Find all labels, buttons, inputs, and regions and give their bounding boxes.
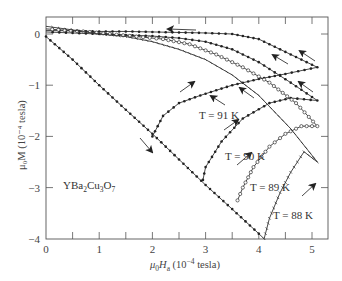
arrow-icon — [180, 82, 194, 92]
arrow-icon — [224, 120, 238, 130]
plot-frame — [46, 17, 328, 239]
x-tick-label: 5 — [309, 243, 315, 255]
arrow-icon — [211, 96, 225, 105]
temp-label-91k: T = 91 K — [199, 109, 239, 121]
arrow-icon — [168, 29, 196, 30]
temp-label-90k: T = 90 K — [225, 150, 265, 162]
magnetization-chart: YBa2Cu3O7 T = 91 K T = 90 K T = 89 K T =… — [0, 0, 342, 281]
compound-label: YBa2Cu3O7 — [63, 179, 115, 194]
series-initial-virgin-magnetization — [45, 35, 264, 239]
arrow-icon — [302, 184, 315, 196]
y-tick-label: −4 — [28, 233, 40, 245]
temp-label-88k: T = 88 K — [273, 209, 313, 221]
x-tick-label: 1 — [96, 243, 102, 255]
temp-label-89k: T = 89 K — [250, 181, 290, 193]
arrow-icon — [240, 88, 254, 98]
x-tick-label: 2 — [150, 243, 156, 255]
arrow-icon — [140, 138, 152, 152]
x-axis-title: μ0Ha (10−4 tesla) — [149, 257, 220, 273]
arrow-icon — [273, 55, 288, 64]
x-tick-label: 3 — [203, 243, 209, 255]
series-t-91-k — [46, 29, 319, 137]
x-tick-labels: 012345 — [43, 243, 315, 255]
x-tick-label: 4 — [256, 243, 262, 255]
x-tick-label: 0 — [43, 243, 49, 255]
axis-ticks — [46, 17, 328, 239]
y-tick-label: −3 — [28, 182, 40, 194]
y-tick-label: 0 — [35, 28, 41, 40]
y-tick-label: −2 — [28, 130, 40, 142]
y-axis-title: μ₀M (10⁻⁴ tesla) — [16, 100, 28, 170]
y-tick-labels: 0−1−2−3−4 — [28, 28, 40, 245]
series-t-90-k — [46, 31, 319, 181]
y-tick-label: −1 — [28, 79, 40, 91]
